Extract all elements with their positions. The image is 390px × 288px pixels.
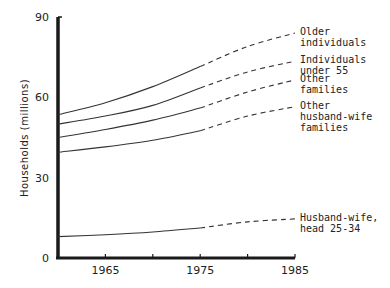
series-line-actual <box>58 67 200 115</box>
series-line-projected <box>200 33 295 66</box>
y-tick-label: 0 <box>42 252 49 265</box>
series-label: Other <box>300 100 330 111</box>
y-tick-label: 30 <box>35 172 49 185</box>
series-line-actual <box>58 228 200 237</box>
series-lines <box>58 33 295 237</box>
series-label: Individuals <box>300 54 366 65</box>
household-projection-chart: 1965197519850306090 OlderindividualsIndi… <box>0 0 390 288</box>
series-label: husband-wife <box>300 111 372 122</box>
series-line-actual <box>58 108 200 137</box>
x-tick-label: 1965 <box>91 264 119 277</box>
series-label: head 25-34 <box>300 223 360 234</box>
series-label: Older <box>300 26 330 37</box>
series-label: families <box>300 122 348 133</box>
y-tick-label: 60 <box>35 91 49 104</box>
series-label: Other <box>300 73 330 84</box>
x-tick-label: 1975 <box>186 264 214 277</box>
series-line-projected <box>200 219 295 228</box>
series-label: families <box>300 84 348 95</box>
y-axis-label: Households (millions) <box>19 79 30 197</box>
series-labels: OlderindividualsIndividualsunder 55Other… <box>300 26 378 234</box>
x-tick-label: 1985 <box>281 264 309 277</box>
series-label: individuals <box>300 37 366 48</box>
series-label: Husband-wife, <box>300 212 378 223</box>
series-line-projected <box>200 107 295 131</box>
series-line-projected <box>200 61 295 88</box>
axes: 1965197519850306090 <box>35 11 309 277</box>
series-line-projected <box>200 80 295 108</box>
y-tick-label: 90 <box>35 11 49 24</box>
series-line-actual <box>58 88 200 124</box>
